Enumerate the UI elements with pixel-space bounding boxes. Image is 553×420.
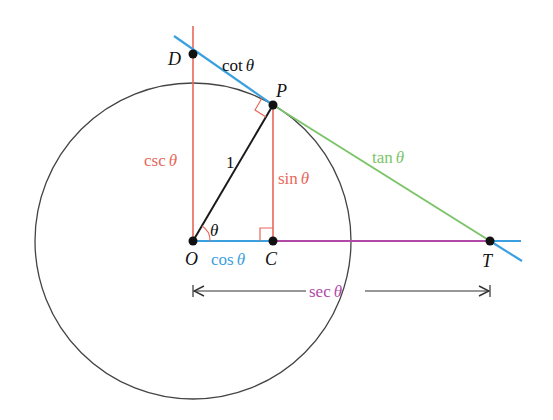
label-sin: sinθ: [278, 169, 309, 188]
label-d: D: [167, 49, 181, 69]
label-sec: secθ: [309, 282, 342, 301]
point-p: [269, 101, 278, 110]
unit-circle-diagram: D P O C T cotθ cscθ sinθ cosθ tanθ secθ …: [0, 0, 553, 420]
label-radius-one: 1: [226, 153, 235, 172]
label-p: P: [275, 81, 287, 101]
label-theta: θ: [210, 221, 218, 240]
label-t: T: [482, 251, 494, 271]
label-csc: cscθ: [144, 151, 177, 170]
point-d: [189, 50, 198, 59]
label-c: C: [265, 249, 278, 269]
point-o: [189, 237, 198, 246]
point-c: [269, 237, 278, 246]
label-tan: tanθ: [372, 148, 404, 167]
label-o: O: [185, 249, 198, 269]
point-t: [486, 237, 495, 246]
right-angle-p: [255, 98, 266, 117]
tangent-extension: [490, 241, 522, 261]
radius-segment: [193, 105, 273, 241]
theta-arc: [202, 226, 210, 241]
label-cot: cotθ: [222, 56, 254, 75]
label-cos: cosθ: [211, 250, 245, 269]
